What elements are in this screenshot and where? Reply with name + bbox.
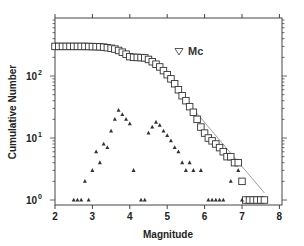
square-marker xyxy=(171,80,178,87)
triangle-marker xyxy=(150,125,154,129)
triangle-marker xyxy=(161,129,165,133)
y-tick-label: 10 xyxy=(26,71,38,82)
y-tick-exponent: 0 xyxy=(38,193,42,200)
triangle-marker xyxy=(147,131,151,135)
triangle-marker xyxy=(120,112,124,116)
x-tick-label: 7 xyxy=(239,211,245,222)
incremental-series xyxy=(72,108,244,202)
x-tick-label: 3 xyxy=(90,211,96,222)
triangle-marker xyxy=(117,108,121,112)
triangle-marker xyxy=(90,168,94,172)
triangle-marker xyxy=(113,117,117,121)
triangle-marker xyxy=(87,198,91,202)
triangle-marker xyxy=(221,198,225,202)
legend: Mc xyxy=(175,45,203,57)
triangle-marker xyxy=(154,120,158,124)
triangle-marker xyxy=(218,198,222,202)
square-marker xyxy=(235,159,242,166)
triangle-marker xyxy=(109,129,113,133)
triangle-marker xyxy=(180,160,184,164)
square-marker xyxy=(190,109,197,116)
triangle-marker xyxy=(105,145,109,149)
triangle-marker xyxy=(102,142,106,146)
triangle-marker xyxy=(72,198,76,202)
square-marker xyxy=(183,97,190,104)
triangle-marker xyxy=(191,168,195,172)
square-marker xyxy=(239,178,246,185)
x-tick-label: 6 xyxy=(202,211,208,222)
square-marker xyxy=(228,153,235,160)
x-tick-label: 5 xyxy=(164,211,170,222)
square-marker xyxy=(261,197,268,204)
triangle-marker xyxy=(79,198,83,202)
mc-marker-icon xyxy=(175,49,183,56)
triangle-marker xyxy=(176,149,180,153)
triangle-marker xyxy=(214,198,218,202)
triangle-marker xyxy=(206,198,210,202)
triangle-marker xyxy=(236,168,240,172)
square-marker xyxy=(175,87,182,94)
x-tick-label: 8 xyxy=(277,211,283,222)
x-tick-label: 2 xyxy=(52,211,58,222)
triangle-marker xyxy=(128,121,132,125)
triangle-marker xyxy=(139,198,143,202)
x-axis-title: Magnitude xyxy=(143,229,193,240)
triangle-marker xyxy=(132,168,136,172)
legend-label-mc: Mc xyxy=(188,45,203,57)
square-marker xyxy=(194,116,201,123)
triangle-marker xyxy=(199,168,203,172)
triangle-marker xyxy=(173,145,177,149)
y-tick-exponent: 2 xyxy=(38,69,42,76)
triangle-marker xyxy=(169,139,173,143)
triangle-marker xyxy=(75,198,79,202)
y-tick-label: 10 xyxy=(26,195,38,206)
x-tick-label: 4 xyxy=(127,211,133,222)
triangle-marker xyxy=(229,179,233,183)
triangle-marker xyxy=(143,198,147,202)
triangle-marker xyxy=(184,168,188,172)
triangle-marker xyxy=(98,160,102,164)
y-tick-label: 10 xyxy=(26,133,38,144)
square-marker xyxy=(198,124,205,130)
y-axis-title: Cumulative Number xyxy=(7,65,18,160)
triangle-marker xyxy=(165,133,169,137)
triangle-marker xyxy=(83,179,87,183)
triangle-marker xyxy=(124,117,128,121)
triangle-marker xyxy=(210,198,214,202)
triangle-marker xyxy=(158,123,162,127)
y-tick-exponent: 1 xyxy=(38,131,42,138)
cumulative-magnitude-chart: 2345678100101102 Mc Magnitude Cumulative… xyxy=(0,0,304,246)
triangle-marker xyxy=(188,160,192,164)
triangle-marker xyxy=(94,149,98,153)
